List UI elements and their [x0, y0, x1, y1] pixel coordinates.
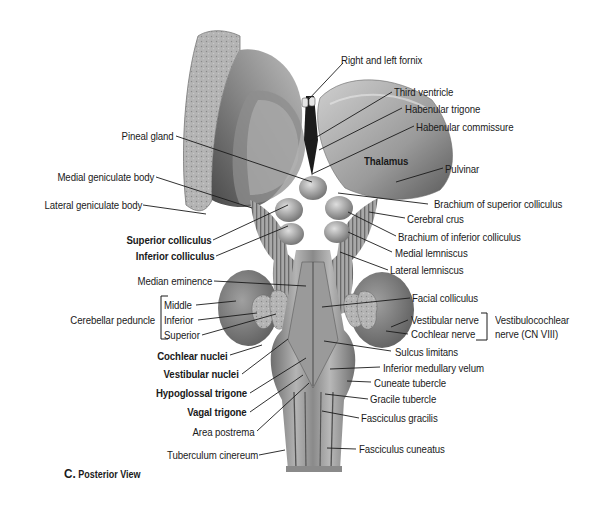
label-peduncle-superior: Superior: [164, 329, 200, 341]
label-cochlear-nerve: Cochlear nerve: [411, 328, 475, 340]
label-pineal-gland: Pineal gland: [122, 130, 174, 142]
label-gracile-tubercle: Gracile tubercle: [370, 393, 436, 405]
label-medial-geniculate-body: Medial geniculate body: [57, 171, 154, 183]
label-area-postrema: Area postrema: [193, 426, 255, 438]
label-habenular-commissure: Habenular commissure: [416, 121, 513, 133]
caption-text: Posterior View: [78, 469, 140, 480]
label-medial-lemniscus: Medial lemniscus: [395, 247, 468, 259]
label-lateral-geniculate-body: Lateral geniculate body: [44, 199, 142, 211]
label-brachium-superior-colliculus: Brachium of superior colliculus: [434, 198, 562, 210]
label-pulvinar: Pulvinar: [445, 163, 479, 175]
label-cochlear-nuclei: Cochlear nuclei: [157, 350, 228, 362]
label-vestibulocochlear-nerve-line1: Vestibulocochlear: [495, 314, 569, 326]
brainstem-illustration: [0, 0, 612, 509]
label-lateral-lemniscus: Lateral lemniscus: [390, 264, 464, 276]
label-third-ventricle: Third ventricle: [394, 86, 453, 98]
label-peduncle-inferior: Inferior: [164, 314, 193, 326]
label-median-eminence: Median eminence: [137, 275, 212, 287]
label-fasciculus-gracilis: Fasciculus gracilis: [361, 412, 438, 424]
label-sulcus-limitans: Sulcus limitans: [395, 346, 458, 358]
label-tuberculum-cinereum: Tuberculum cinereum: [167, 449, 258, 461]
label-cerebellar-peduncle: Cerebellar peduncle: [70, 314, 155, 326]
label-vagal-trigone: Vagal trigone: [188, 406, 247, 418]
label-vestibulocochlear-nerve-line2: nerve (CN VIII): [495, 328, 558, 340]
label-facial-colliculus: Facial colliculus: [412, 292, 478, 304]
label-thalamus: Thalamus: [364, 155, 408, 167]
label-hypoglossal-trigone: Hypoglossal trigone: [156, 387, 247, 399]
label-vestibular-nuclei: Vestibular nuclei: [164, 368, 239, 380]
label-right-and-left-fornix: Right and left fornix: [341, 54, 422, 66]
label-cuneate-tubercle: Cuneate tubercle: [374, 377, 446, 389]
label-peduncle-middle: Middle: [164, 299, 192, 311]
brainstem-posterior-view-figure: Pineal gland Medial geniculate body Late…: [0, 0, 612, 509]
figure-caption: C. Posterior View: [64, 466, 141, 481]
label-habenular-trigone: Habenular trigone: [405, 103, 480, 115]
label-cerebral-crus: Cerebral crus: [407, 213, 464, 225]
label-brachium-inferior-colliculus: Brachium of inferior colliculus: [398, 231, 521, 243]
label-vestibular-nerve: Vestibular nerve: [411, 314, 479, 326]
label-inferior-colliculus: Inferior colliculus: [136, 250, 215, 262]
label-inferior-medullary-velum: Inferior medullary velum: [383, 362, 484, 374]
caption-letter: C.: [64, 466, 76, 481]
label-fasciculus-cuneatus: Fasciculus cuneatus: [359, 443, 445, 455]
label-superior-colliculus: Superior colliculus: [127, 234, 212, 246]
